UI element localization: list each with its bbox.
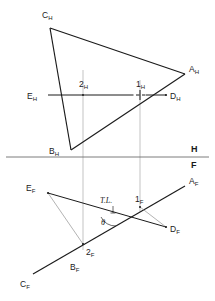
edge-ch-bh bbox=[50, 28, 71, 150]
label-a-f: AF bbox=[189, 176, 199, 187]
label-a-h: AH bbox=[189, 64, 199, 75]
label-d-h: DH bbox=[170, 91, 180, 102]
reference-label-h: H bbox=[191, 144, 198, 154]
projection-lines-group bbox=[83, 70, 140, 250]
edge-ef-2f bbox=[48, 193, 83, 244]
label-b-f: BF bbox=[70, 262, 80, 273]
label-c-f: CF bbox=[20, 279, 30, 290]
marker-2h bbox=[82, 94, 84, 96]
marker-dh bbox=[165, 94, 167, 96]
triangle-abc-top bbox=[50, 28, 185, 150]
marker-2f bbox=[82, 243, 84, 245]
frontal-view-group: T.L. θ AF BF CF DF bbox=[20, 176, 199, 290]
label-2-h: 2H bbox=[79, 79, 88, 90]
edge-ch-ah bbox=[50, 28, 185, 74]
edge-bh-ah bbox=[71, 74, 185, 150]
marker-ef bbox=[47, 192, 49, 194]
label-c-h: CH bbox=[42, 10, 52, 21]
orthographic-projection-drawing: H F bbox=[0, 0, 215, 301]
edge-1f-df bbox=[140, 207, 166, 227]
labels-top-view: AH BH CH DH EH 1H 2H bbox=[27, 10, 199, 157]
label-2-f: 2F bbox=[86, 247, 95, 258]
label-1-f: 1F bbox=[135, 194, 144, 205]
label-e-h: EH bbox=[27, 91, 37, 102]
figure-canvas: H F bbox=[0, 0, 215, 301]
label-b-h: BH bbox=[49, 146, 59, 157]
label-true-length: T.L. bbox=[100, 196, 112, 205]
label-theta: θ bbox=[101, 217, 105, 227]
marker-1f bbox=[139, 206, 141, 208]
label-d-f: DF bbox=[170, 224, 180, 235]
label-1-h: 1H bbox=[136, 79, 145, 90]
reference-line-group: H F bbox=[6, 144, 209, 170]
horizontal-view-group: AH BH CH DH EH 1H 2H bbox=[27, 10, 199, 157]
reference-label-f: F bbox=[191, 160, 197, 170]
label-e-f: EF bbox=[26, 183, 36, 194]
angle-theta-annotation: θ bbox=[101, 217, 116, 227]
marker-df bbox=[165, 226, 167, 228]
